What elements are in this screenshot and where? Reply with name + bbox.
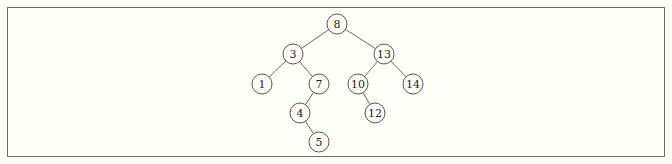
tree-node-8: 8	[327, 14, 347, 34]
tree-node-14: 14	[403, 74, 423, 94]
edge-10-12	[363, 93, 370, 105]
edge-13-10	[365, 62, 378, 77]
node-label: 8	[334, 18, 341, 31]
tree-node-5: 5	[309, 132, 329, 152]
node-label: 10	[351, 78, 365, 91]
node-label: 13	[377, 48, 391, 61]
tree-node-13: 13	[374, 44, 394, 64]
tree-node-3: 3	[283, 44, 303, 64]
node-label: 3	[290, 48, 297, 61]
tree-nodes: 83131710144125	[252, 14, 423, 152]
node-label: 7	[316, 78, 323, 91]
binary-tree-diagram: 83131710144125	[0, 0, 672, 164]
edge-7-4	[305, 92, 313, 104]
edge-4-5	[305, 121, 313, 133]
tree-node-7: 7	[309, 74, 329, 94]
tree-node-1: 1	[252, 74, 272, 94]
node-label: 12	[368, 107, 382, 120]
edge-8-3	[301, 30, 328, 49]
edge-8-13	[345, 29, 375, 48]
node-label: 5	[316, 136, 323, 149]
node-label: 14	[406, 78, 420, 91]
edge-13-14	[391, 61, 406, 77]
edge-3-7	[300, 62, 313, 77]
tree-node-12: 12	[365, 103, 385, 123]
tree-node-4: 4	[290, 103, 310, 123]
edge-3-1	[269, 61, 286, 77]
node-label: 1	[259, 78, 266, 91]
tree-node-10: 10	[348, 74, 368, 94]
node-label: 4	[297, 107, 304, 120]
